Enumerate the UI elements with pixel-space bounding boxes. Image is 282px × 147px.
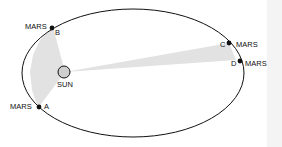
point-d-label: D — [231, 59, 237, 68]
mars-b-label: MARS — [25, 22, 47, 31]
sector-c-d — [65, 43, 236, 72]
sun-label: SUN — [57, 80, 73, 89]
mars-a-label: MARS — [10, 102, 32, 111]
mars-d-icon — [238, 59, 243, 64]
point-b-label: B — [55, 28, 60, 37]
orbit-svg: SUN MARS B MARS A C MARS D MARS — [0, 0, 282, 147]
point-a-label: A — [44, 102, 49, 111]
sun-icon — [58, 66, 70, 78]
orbit-diagram: SUN MARS B MARS A C MARS D MARS — [0, 0, 282, 147]
mars-a-icon — [37, 105, 42, 110]
mars-d-label: MARS — [245, 59, 267, 68]
mars-c-icon — [227, 41, 232, 46]
mars-c-label: MARS — [236, 40, 258, 49]
point-c-label: C — [220, 40, 226, 49]
mars-b-icon — [50, 26, 55, 31]
